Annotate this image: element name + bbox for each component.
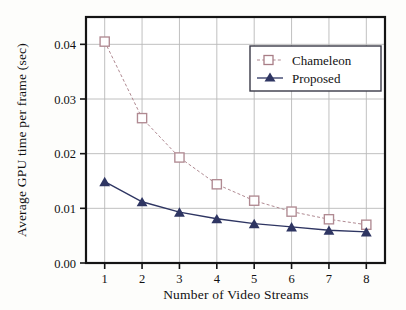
gpu-time-line-chart: 0.000.010.020.030.04 12345678 Average GP… (0, 0, 406, 310)
y-tick-label: 0.00 (54, 257, 76, 271)
data-point-open-square (175, 153, 184, 162)
legend-label-chameleon: Chameleon (292, 53, 352, 68)
x-tick-label: 6 (288, 272, 294, 286)
data-point-open-square (287, 207, 296, 216)
x-tick-label: 5 (251, 272, 257, 286)
y-axis-title: Average GPU time per frame (sec) (14, 43, 29, 237)
data-point-open-square (324, 215, 333, 224)
x-tick-label: 1 (102, 272, 108, 286)
legend-label-proposed: Proposed (292, 71, 341, 86)
x-tick-label: 8 (363, 272, 369, 286)
y-tick-label: 0.01 (54, 202, 76, 216)
y-axis-tick-labels: 0.000.010.020.030.04 (54, 38, 77, 271)
y-tick-label: 0.03 (54, 93, 76, 107)
data-point-open-square (250, 196, 259, 205)
data-point-open-square (137, 114, 146, 123)
open-square-icon (264, 56, 273, 65)
chart-legend: Chameleon Proposed (250, 46, 381, 91)
x-axis-title: Number of Video Streams (163, 287, 309, 302)
y-tick-label: 0.02 (54, 147, 76, 161)
x-tick-label: 4 (214, 272, 221, 286)
x-tick-label: 7 (326, 272, 332, 286)
chart-figure: 0.000.010.020.030.04 12345678 Average GP… (0, 0, 406, 310)
x-axis-tick-labels: 12345678 (102, 272, 370, 286)
x-tick-label: 3 (176, 272, 182, 286)
y-tick-label: 0.04 (54, 38, 77, 52)
x-tick-label: 2 (139, 272, 145, 286)
data-point-open-square (212, 180, 221, 189)
data-point-open-square (100, 37, 109, 46)
